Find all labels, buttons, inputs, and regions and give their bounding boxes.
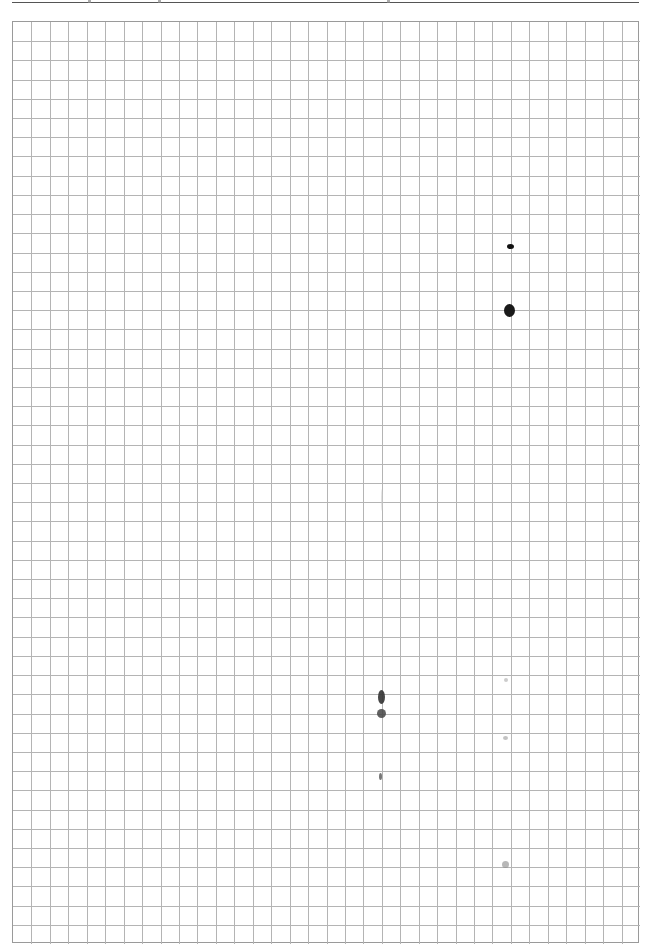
faint-speck-2 [503, 736, 508, 740]
header-text-fragment [88, 0, 91, 3]
grid-paper [12, 21, 639, 943]
header-rule [12, 2, 639, 3]
faint-speck-1 [504, 678, 508, 682]
ink-dot-large [504, 304, 515, 317]
header-text-fragment [158, 0, 161, 3]
faint-speck-3 [502, 861, 509, 868]
grid-lines [13, 22, 640, 944]
ink-smudge-upper [378, 690, 385, 704]
header-text-fragment [387, 0, 390, 3]
ink-dot-small [507, 244, 514, 249]
faint-streak [381, 489, 383, 511]
ink-smudge-lower [377, 709, 386, 718]
ink-speck [379, 773, 382, 780]
